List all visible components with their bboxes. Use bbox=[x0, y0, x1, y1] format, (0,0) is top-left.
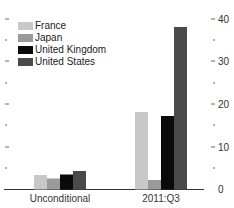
y-tick-0: 0 bbox=[218, 184, 224, 195]
legend-label-us: United States bbox=[35, 56, 95, 68]
legend-swatch-uk bbox=[18, 46, 33, 54]
bar-2011q3-uk bbox=[161, 116, 174, 190]
legend: France Japan United Kingdom United State… bbox=[18, 20, 106, 68]
legend-swatch-us bbox=[18, 58, 33, 66]
y-tick-40: 40 bbox=[218, 14, 230, 25]
category-label-unconditional: Unconditional bbox=[30, 193, 91, 204]
bar-unconditional-france bbox=[34, 175, 47, 190]
y-tick-20: 20 bbox=[218, 99, 230, 110]
legend-label-japan: Japan bbox=[35, 32, 62, 44]
legend-label-uk: United Kingdom bbox=[35, 44, 106, 56]
right-axis-ticks bbox=[211, 19, 215, 168]
bar-unconditional-japan bbox=[47, 179, 60, 190]
y-tick-30: 30 bbox=[218, 56, 230, 67]
legend-label-france: France bbox=[35, 20, 66, 32]
category-label-2011q3: 2011:Q3 bbox=[142, 193, 180, 204]
bar-unconditional-uk bbox=[60, 175, 73, 190]
legend-item-us: United States bbox=[18, 56, 106, 68]
left-axis-ticks bbox=[5, 19, 9, 168]
legend-swatch-japan bbox=[18, 34, 33, 42]
bar-2011q3-us bbox=[174, 27, 187, 190]
legend-item-france: France bbox=[18, 20, 106, 32]
legend-item-uk: United Kingdom bbox=[18, 44, 106, 56]
bar-2011q3-japan bbox=[148, 180, 161, 190]
y-tick-10: 10 bbox=[218, 142, 230, 153]
legend-item-japan: Japan bbox=[18, 32, 106, 44]
legend-swatch-france bbox=[18, 22, 33, 30]
bar-unconditional-us bbox=[73, 171, 86, 190]
bar-2011q3-france bbox=[135, 112, 148, 190]
